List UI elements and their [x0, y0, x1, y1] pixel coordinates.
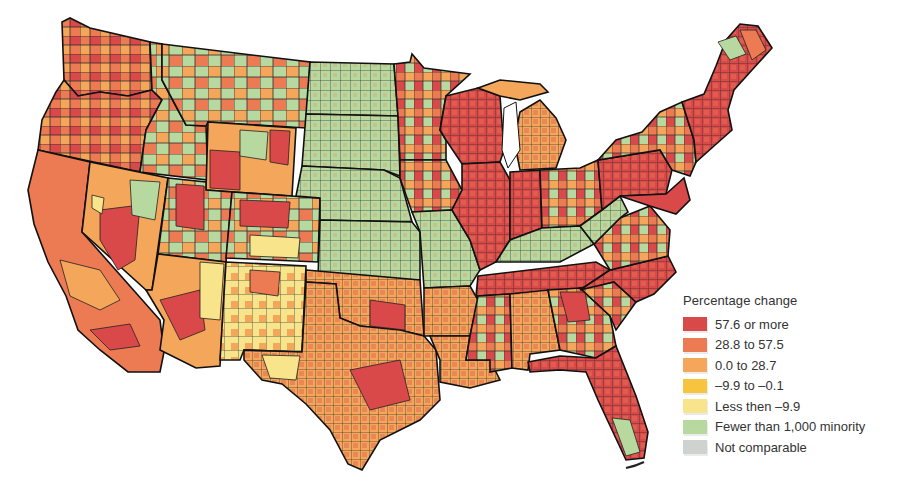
legend-label: 57.6 or more	[715, 317, 789, 332]
region-north-dakota	[306, 62, 398, 116]
legend-label: Fewer than 1,000 minority	[715, 419, 865, 434]
region-michigan	[514, 100, 566, 170]
legend-item-neg9-9-to-neg0-1: –9.9 to –0.1	[683, 376, 913, 397]
legend-swatch	[683, 358, 707, 372]
legend-swatch	[683, 338, 707, 352]
legend-item-28-8-to-57-5: 28.8 to 57.5	[683, 335, 913, 356]
region-washington	[62, 18, 152, 96]
legend-title: Percentage change	[683, 293, 913, 308]
region-wisconsin	[440, 88, 504, 164]
legend-label: 28.8 to 57.5	[715, 337, 784, 352]
legend-swatch	[683, 399, 707, 413]
legend-swatch	[683, 420, 707, 434]
region-kansas	[318, 220, 420, 280]
region-arkansas	[424, 286, 478, 336]
legend-item-not-comparable: Not comparable	[683, 437, 913, 458]
legend-swatch	[683, 379, 707, 393]
region-montana	[162, 44, 310, 128]
legend-label: 0.0 to 28.7	[715, 358, 776, 373]
legend-item-0-to-28-7: 0.0 to 28.7	[683, 355, 913, 376]
legend-label: Less then –9.9	[715, 399, 800, 414]
legend-item-fewer-than-1000-minority: Fewer than 1,000 minority	[683, 417, 913, 438]
legend-item-57-6-or-more: 57.6 or more	[683, 314, 913, 335]
legend-swatch	[683, 440, 707, 454]
legend-label: Not comparable	[715, 440, 807, 455]
legend-item-less-than-neg9-9: Less then –9.9	[683, 396, 913, 417]
map-legend: Percentage change 57.6 or more 28.8 to 5…	[683, 293, 913, 458]
legend-swatch	[683, 317, 707, 331]
legend-label: –9.9 to –0.1	[715, 378, 784, 393]
region-iowa	[400, 160, 462, 212]
